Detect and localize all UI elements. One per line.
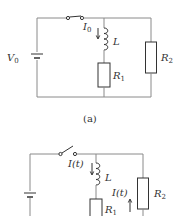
label-r2: R2 bbox=[153, 188, 166, 201]
resistor-r1 bbox=[90, 199, 102, 216]
circuit-b bbox=[24, 146, 149, 216]
label-inductor: L bbox=[104, 172, 112, 183]
circuit-a bbox=[31, 16, 157, 97]
switch-terminal bbox=[59, 152, 62, 155]
label-i-t-inductor: I(t) bbox=[67, 158, 84, 169]
switch-terminal bbox=[66, 16, 69, 19]
switch-blade-open bbox=[62, 146, 73, 153]
inductor-coil bbox=[104, 28, 108, 50]
switch-terminal bbox=[73, 152, 76, 155]
label-i0: I0 bbox=[82, 21, 91, 34]
resistor-r2 bbox=[146, 42, 157, 73]
inductor-coil bbox=[96, 163, 100, 185]
label-r1: R1 bbox=[104, 204, 117, 216]
label-v0: V0 bbox=[7, 52, 19, 65]
labels-b: I(t) L I(t) R1 R2 bbox=[67, 158, 166, 216]
resistor-r2 bbox=[138, 178, 149, 209]
switch-blade-closed bbox=[70, 16, 82, 17]
caption-a: (a) bbox=[83, 113, 97, 124]
label-r2: R2 bbox=[160, 52, 173, 65]
label-i-t-r2: I(t) bbox=[111, 187, 128, 198]
switch-terminal bbox=[80, 16, 83, 19]
label-r1: R1 bbox=[112, 70, 125, 83]
resistor-r1 bbox=[98, 63, 110, 87]
circuit-figure: V0 I0 L R1 R2 (a) I( bbox=[0, 0, 183, 216]
label-inductor: L bbox=[112, 36, 120, 47]
